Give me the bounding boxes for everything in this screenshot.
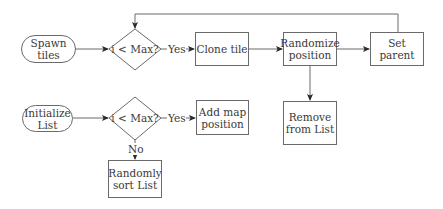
no-label: No [128, 143, 144, 155]
remove-line1: Remove [289, 111, 332, 123]
decision-2-label: i < Max? [111, 112, 158, 124]
sort-line1: Randomly [108, 167, 161, 179]
process-remove-from-list: Remove from List [283, 101, 337, 145]
arrow-loop-back [135, 14, 398, 32]
process-set-parent: Set parent [370, 32, 424, 66]
process-randomize-position: Randomize position [283, 32, 337, 66]
clone-tile-text: Clone tile [196, 43, 247, 55]
start-initialize-list: Initialize List [22, 105, 73, 132]
add-line1: Add map [199, 106, 246, 118]
start-spawn-tiles: Spawn tiles [21, 35, 76, 63]
yes-label-1: Yes [168, 43, 186, 55]
process-clone-tile: Clone tile [195, 32, 249, 66]
sort-line2: sort List [113, 179, 157, 191]
spawn-tiles-line1: Spawn [31, 37, 67, 49]
spawn-tiles-line2: tiles [37, 49, 60, 61]
initialize-line1: Initialize [24, 107, 71, 119]
process-add-map-position: Add map position [196, 100, 249, 135]
flowchart-canvas: Spawn tiles i < Max? Yes Clone tile Rand… [0, 0, 443, 209]
process-randomly-sort-list: Randomly sort List [108, 160, 162, 198]
initialize-line2: List [38, 119, 58, 131]
yes-label-2: Yes [168, 112, 186, 124]
randomize-line1: Randomize [280, 37, 339, 49]
randomize-line2: position [289, 49, 331, 61]
decision-1-label: i < Max? [111, 43, 158, 55]
set-parent-text: Set parent [371, 37, 423, 61]
add-line2: position [201, 118, 243, 130]
remove-line2: from List [286, 123, 334, 135]
